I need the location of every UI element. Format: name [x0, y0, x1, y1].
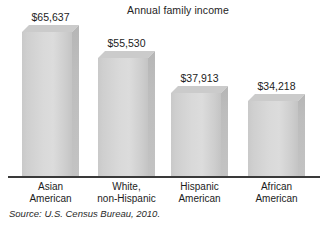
category-axis-labels: Asian American White, non-Hispanic Hispa…	[0, 181, 328, 209]
bar-value-label: $34,218	[248, 80, 305, 92]
category-label-line1: African	[238, 181, 315, 193]
category-label-line1: Hispanic	[161, 181, 238, 193]
category-label-african-american: African American	[238, 181, 315, 205]
category-label-line1: Asian	[12, 181, 89, 193]
category-label-line2: non-Hispanic	[88, 193, 165, 205]
bar-front-face	[248, 101, 298, 178]
bar-column	[98, 51, 155, 178]
bar-column	[248, 94, 305, 178]
category-label-asian-american: Asian American	[12, 181, 89, 205]
bar-front-face	[171, 93, 221, 178]
bar-value-label: $65,637	[22, 11, 79, 23]
category-label-line2: American	[161, 193, 238, 205]
bar-front-face	[98, 58, 148, 178]
bar-right-face	[72, 25, 79, 178]
bar-right-face	[221, 86, 228, 178]
bar-group-african-american[interactable]: $34,218	[248, 94, 305, 178]
category-label-white-non-hispanic: White, non-Hispanic	[88, 181, 165, 205]
category-label-hispanic-american: Hispanic American	[161, 181, 238, 205]
bar-top-face	[248, 94, 305, 101]
bar-top-face	[98, 51, 155, 58]
bar-top-face	[22, 25, 79, 32]
bar-top-face	[171, 86, 228, 93]
bar-value-label: $55,530	[98, 37, 155, 49]
bar-front-face	[22, 32, 72, 178]
plot-area: $65,637 $55,530 $37,913	[0, 0, 328, 178]
category-label-line2: American	[238, 193, 315, 205]
bar-chart-figure: Annual family income $65,637 $55,530 $37…	[0, 0, 328, 225]
bar-group-asian-american[interactable]: $65,637	[22, 25, 79, 178]
bar-right-face	[148, 51, 155, 178]
category-label-line2: American	[12, 193, 89, 205]
bar-group-hispanic-american[interactable]: $37,913	[171, 86, 228, 178]
bar-column	[171, 86, 228, 178]
bar-right-face	[298, 94, 305, 178]
source-note: Source: U.S. Census Bureau, 2010.	[9, 208, 160, 220]
category-label-line1: White,	[88, 181, 165, 193]
x-axis-line	[8, 176, 320, 178]
bar-column	[22, 25, 79, 178]
bar-value-label: $37,913	[171, 72, 228, 84]
bar-group-white-non-hispanic[interactable]: $55,530	[98, 51, 155, 178]
